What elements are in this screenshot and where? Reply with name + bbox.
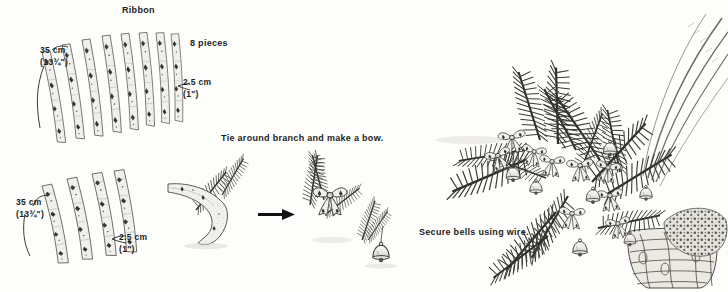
label-ribbon: Ribbon <box>122 5 155 15</box>
label-length-bottom-imperial: (13¾") <box>16 208 44 220</box>
tie-branch-before <box>168 154 258 250</box>
label-width-bottom: 2.5 cm (1") <box>119 231 147 256</box>
label-width-bottom-imperial: (1") <box>119 243 147 255</box>
pine-branch-cluster <box>447 60 678 285</box>
basket-icon <box>628 228 717 288</box>
label-length-top-imperial: (13¾") <box>40 56 68 68</box>
caption-tie-around-branch: Tie around branch and make a bow. <box>221 133 383 143</box>
arrow-right-icon <box>258 209 295 220</box>
arrangement-bows <box>484 130 633 241</box>
label-width-bottom-metric: 2.5 cm <box>119 231 147 243</box>
label-width-top: 2.5 cm (1") <box>183 76 211 101</box>
label-length-top: 35 cm (13¾") <box>40 44 68 69</box>
berry-cluster <box>664 208 727 256</box>
grass-blades <box>643 14 728 186</box>
caption-secure-bells: Secure bells using wire. <box>419 227 529 237</box>
bell-on-branch <box>346 196 399 268</box>
label-8-pieces: 8 pieces <box>190 38 228 48</box>
illustration-layer <box>0 0 728 292</box>
label-length-bottom: 35 cm (13¾") <box>16 196 44 221</box>
tie-branch-after <box>286 150 365 243</box>
arrangement-bells <box>506 139 652 256</box>
label-width-top-imperial: (1") <box>183 88 211 100</box>
label-width-top-metric: 2.5 cm <box>183 76 211 88</box>
label-length-bottom-metric: 35 cm <box>16 196 44 208</box>
finished-arrangement <box>436 14 728 288</box>
craft-instruction-figure: Ribbon 8 pieces 35 cm (13¾") 2.5 cm (1")… <box>0 0 728 292</box>
label-length-top-metric: 35 cm <box>40 44 68 56</box>
